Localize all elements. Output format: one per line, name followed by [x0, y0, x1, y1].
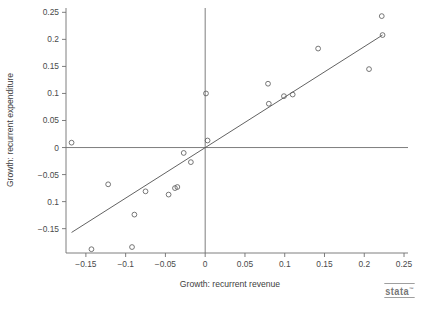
x-tick-label: 0	[203, 259, 208, 269]
x-tick-label: −0.15	[75, 259, 97, 269]
data-points-group	[69, 14, 385, 252]
linear-fit	[72, 35, 383, 232]
linear-fit-line-group	[72, 35, 383, 232]
data-point	[188, 160, 193, 165]
x-tick-label: −0.1	[117, 259, 134, 269]
data-point	[181, 151, 186, 156]
axis-frame	[66, 8, 408, 253]
x-tick-label: 0.1	[279, 259, 291, 269]
data-point	[69, 140, 74, 145]
data-point	[89, 247, 94, 252]
x-tick-group: −0.15−0.1−0.0500.050.10.150.20.25	[75, 253, 412, 269]
stata-logo-text: stata	[385, 286, 409, 297]
y-tick-label: 0.05	[43, 115, 60, 125]
data-point	[367, 67, 372, 72]
data-point	[130, 245, 135, 250]
data-point	[205, 138, 210, 143]
trademark-symbol: ™	[409, 286, 414, 292]
y-tick-label: 0.2	[47, 34, 59, 44]
y-tick-label: 0.15	[43, 61, 60, 71]
data-point	[143, 189, 148, 194]
data-point	[266, 81, 271, 86]
x-tick-label: 0.15	[316, 259, 333, 269]
x-tick-label: 0.05	[237, 259, 254, 269]
data-point	[106, 182, 111, 187]
data-point	[204, 91, 209, 96]
data-point	[290, 92, 295, 97]
x-tick-label: −0.05	[155, 259, 177, 269]
data-point	[316, 46, 321, 51]
y-tick-label: 0.25	[43, 7, 60, 17]
y-tick-label: 0.1	[47, 197, 59, 207]
x-tick-label: 0.25	[396, 259, 413, 269]
axes-group	[66, 8, 408, 253]
y-axis-title: Growth: recurrent expenditure	[5, 73, 15, 187]
y-tick-group: 0.250.20.150.10.050−0.050.1−0.15	[38, 7, 66, 233]
y-tick-label: 0	[54, 143, 59, 153]
plot-canvas: −0.15−0.1−0.0500.050.10.150.20.25 0.250.…	[0, 0, 423, 310]
x-axis-title: Growth: recurrent revenue	[180, 279, 281, 289]
data-point	[379, 14, 384, 19]
data-point	[166, 192, 171, 197]
x-tick-label: 0.2	[358, 259, 370, 269]
data-point	[380, 33, 385, 38]
data-point	[266, 101, 271, 106]
stata-logo: stata™	[384, 283, 414, 298]
reference-lines-group	[66, 8, 408, 253]
scatter-plot-figure: −0.15−0.1−0.0500.050.10.150.20.25 0.250.…	[0, 0, 423, 310]
y-tick-label: 0.1	[47, 88, 59, 98]
y-tick-label: −0.15	[38, 224, 60, 234]
data-point	[132, 212, 137, 217]
y-tick-label: −0.05	[38, 170, 60, 180]
